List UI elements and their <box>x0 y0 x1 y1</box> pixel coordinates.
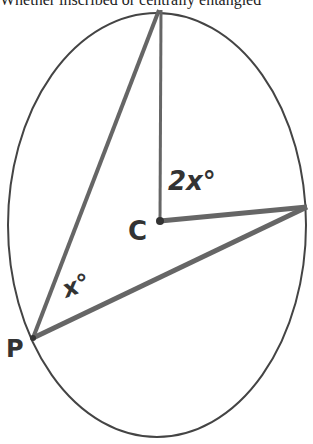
central-angle-label: 2x° <box>168 166 216 196</box>
point-p-dot <box>30 335 36 341</box>
point-label: P <box>6 335 24 363</box>
center-label: C <box>128 216 147 246</box>
center-dot <box>156 217 164 225</box>
inscribed-angle-label: x° <box>58 268 94 304</box>
radius-top <box>160 10 161 221</box>
circle-diagram: C P 2x° x° <box>0 0 313 444</box>
circle-outline <box>8 13 306 437</box>
